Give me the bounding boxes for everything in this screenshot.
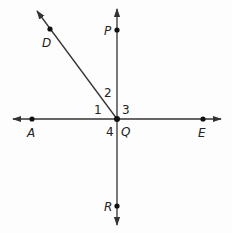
point-e [200, 116, 205, 121]
label-p: P [104, 24, 112, 38]
label-a: A [26, 126, 35, 140]
geometry-diagram: D P A E R Q 1 2 3 4 [0, 0, 232, 233]
label-q: Q [121, 125, 130, 139]
point-a [29, 116, 34, 121]
label-d: D [42, 36, 51, 50]
point-r [114, 203, 119, 208]
point-q [114, 116, 120, 122]
angle-1-label: 1 [94, 103, 102, 117]
angle-3-label: 3 [122, 103, 130, 117]
label-r: R [104, 200, 112, 214]
point-d [47, 26, 52, 31]
angle-4-label: 4 [106, 125, 114, 139]
angle-2-label: 2 [104, 86, 112, 100]
diagram-svg: D P A E R Q 1 2 3 4 [0, 0, 232, 233]
point-p [114, 27, 119, 32]
label-e: E [198, 126, 206, 140]
